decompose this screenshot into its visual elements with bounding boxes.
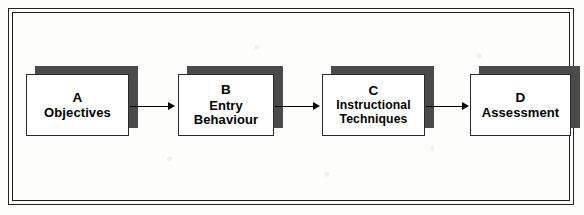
node-a-label-line-1: Objectives [44,106,111,121]
arrow-c-to-d-shaft [426,106,463,108]
node-d-letter: D [516,90,526,105]
node-d-box[interactable]: D Assessment [470,74,571,136]
node-b-label-line-1: Entry [209,99,243,114]
node-c-label-line-1: Instructional [336,99,410,113]
node-b-label-line-2: Behaviour [194,113,258,128]
arrow-a-to-b-head-icon [168,102,175,110]
flow-node-b[interactable]: B Entry Behaviour [178,66,283,142]
arrow-b-to-c-shaft [275,106,314,108]
node-c-letter: C [369,83,379,98]
diagram-canvas: A Objectives B Entry Behaviour [0,0,584,215]
arrow-b-to-c [275,102,321,111]
flow-node-c[interactable]: C Instructional Techniques [322,66,434,142]
flow-node-a[interactable]: A Objectives [26,66,138,142]
node-a-letter: A [73,90,83,105]
node-b-box[interactable]: B Entry Behaviour [178,74,274,136]
node-b-letter: B [221,82,231,97]
arrow-b-to-c-head-icon [313,102,320,110]
flow-row: A Objectives B Entry Behaviour [26,66,556,146]
arrow-c-to-d [426,102,470,111]
arrow-a-to-b-shaft [130,106,169,108]
flow-node-d[interactable]: D Assessment [470,66,580,142]
arrow-c-to-d-head-icon [462,102,469,110]
node-c-box[interactable]: C Instructional Techniques [322,74,425,136]
node-a-box[interactable]: A Objectives [26,74,129,136]
node-c-label-line-2: Techniques [340,113,408,127]
node-d-label-line-1: Assessment [482,106,560,121]
arrow-a-to-b [130,102,176,111]
